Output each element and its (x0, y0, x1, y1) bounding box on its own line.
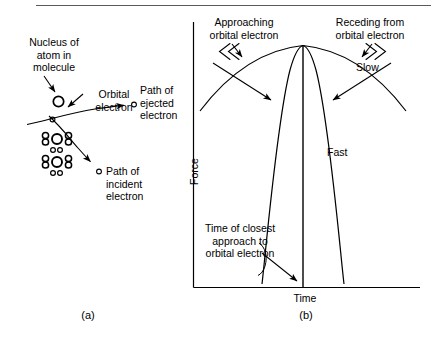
panel-b-caption: (b) (286, 309, 326, 321)
orbital-electron-pointer-arrow (68, 94, 83, 107)
receding-label: Receding from orbital electron (320, 16, 420, 41)
orbital-electron-label: Orbital electron (84, 88, 144, 113)
slow-curve-label: Slow (356, 61, 390, 74)
molecule-electron-below-1-right (58, 148, 63, 153)
closest-approach-label: Time of closest approach to orbital elec… (196, 222, 284, 260)
graph-y-axis-title: Force (188, 158, 200, 185)
approaching-label: Approaching orbital electron (198, 16, 290, 41)
molecule-atom-2 (52, 157, 62, 167)
molecule-electron-pair-1b-bottom (65, 139, 71, 145)
molecule-electron-pair-1a-bottom (42, 139, 48, 145)
approaching-chevron-marker (220, 44, 240, 60)
molecule-electron-below-2-left (51, 171, 56, 176)
molecule-electron-pair-2b-top (65, 155, 71, 161)
nucleus-circle (53, 96, 63, 106)
fast-curve-label: Fast (327, 146, 359, 159)
molecule-electron-pair-2b-bottom (65, 162, 71, 168)
incident-electron-path-label: Path of incident electron (106, 165, 166, 203)
panel-a-caption: (a) (68, 309, 108, 321)
molecule-electron-below-2-right (58, 171, 63, 176)
molecule-electron-pair-2a-top (42, 155, 48, 161)
molecule-electron-below-1-left (51, 148, 56, 153)
molecule-atom-1 (52, 134, 62, 144)
nucleus-label: Nucleus of atom in molecule (12, 36, 96, 74)
ejected-electron-path-label: Path of ejected electron (140, 84, 194, 122)
molecule-electron-pair-1a-top (42, 132, 48, 138)
molecule-electron-pair-2a-bottom (42, 162, 48, 168)
graph-x-axis-title: Time (283, 292, 327, 305)
receding-slow-arrow (362, 44, 372, 57)
receding-chevron-marker (366, 44, 386, 60)
figure-container: Nucleus of atom in molecule Orbital elec… (0, 0, 431, 339)
incident-electron-dot (97, 169, 102, 174)
nucleus-pointer-arrow (44, 76, 55, 92)
